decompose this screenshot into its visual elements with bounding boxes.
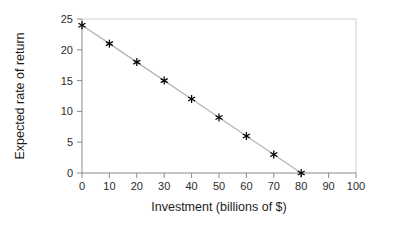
y-tick-label: 15 — [61, 75, 73, 87]
x-tick-label: 100 — [347, 180, 365, 192]
y-tick-label: 5 — [67, 136, 73, 148]
x-axis-title: Investment (billions of $) — [151, 200, 286, 214]
x-tick-label: 20 — [131, 180, 143, 192]
x-tick-label: 30 — [158, 180, 170, 192]
x-tick-label: 70 — [268, 180, 280, 192]
x-tick-label: 80 — [295, 180, 307, 192]
scatter-line-chart: 25 20 15 10 5 0 0 10 20 30 40 50 60 70 8… — [0, 0, 410, 229]
y-tick-label: 0 — [67, 167, 73, 179]
x-tick-label: 60 — [240, 180, 252, 192]
y-tick-label: 20 — [61, 44, 73, 56]
y-tick-label: 25 — [61, 13, 73, 25]
x-tick-label: 90 — [322, 180, 334, 192]
chart-container: 25 20 15 10 5 0 0 10 20 30 40 50 60 70 8… — [0, 0, 410, 229]
y-tick-label: 10 — [61, 105, 73, 117]
x-tick-label: 40 — [185, 180, 197, 192]
x-tick-label: 0 — [79, 180, 85, 192]
y-axis-title: Expected rate of return — [13, 32, 27, 159]
x-tick-label: 10 — [103, 180, 115, 192]
x-tick-label: 50 — [213, 180, 225, 192]
